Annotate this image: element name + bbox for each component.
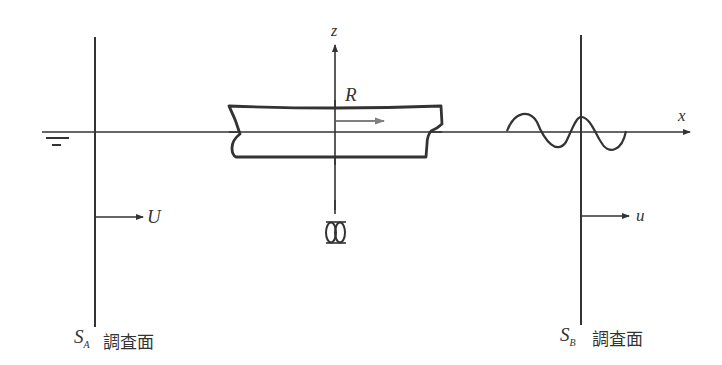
velocity-label-upstream: U — [147, 206, 161, 228]
momentum-diagram: z x R U u SA 調査面 SB 調査面 — [0, 0, 722, 365]
section-a-caption: 調査面 — [103, 328, 154, 353]
x-axis-label: x — [678, 106, 686, 126]
section-b-symbol: SB — [560, 324, 576, 348]
diagram-graphics — [0, 0, 722, 365]
section-b-caption: 調査面 — [592, 325, 643, 350]
water-surface-icon — [46, 138, 69, 145]
propeller-icon — [326, 200, 346, 243]
velocity-label-downstream: u — [636, 206, 645, 226]
resistance-label: R — [345, 84, 357, 106]
section-a-symbol: SA — [74, 326, 90, 350]
z-axis-label: z — [331, 22, 337, 40]
